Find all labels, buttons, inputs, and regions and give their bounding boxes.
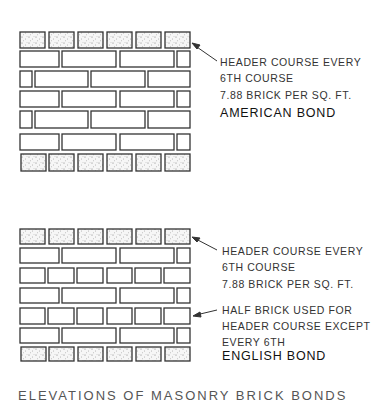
note-half-brick: HALF BRICK USED FOR	[222, 304, 352, 316]
arrow-head-icon	[192, 237, 200, 242]
arrow-head-icon	[193, 312, 201, 317]
note-every-6th: EVERY 6TH	[222, 336, 285, 348]
header-course-bottom	[21, 154, 190, 171]
note-6th-course: 6TH COURSE	[220, 72, 294, 84]
figure-caption: ELEVATIONS OF MASONRY BRICK BONDS	[18, 388, 347, 403]
note-header-except: HEADER COURSE EXCEPT	[222, 320, 371, 332]
note-header-course: HEADER COURSE EVERY	[222, 245, 363, 257]
diagram-title: AMERICAN BOND	[220, 107, 336, 119]
note-6th-course: 6TH COURSE	[222, 261, 296, 273]
note-brick-per-sqft: 7.88 BRICK PER SQ. FT.	[222, 278, 354, 290]
diagram-title: ENGLISH BOND	[222, 350, 326, 362]
note-brick-per-sqft: 7.88 BRICK PER SQ. FT.	[220, 89, 352, 101]
note-header-course: HEADER COURSE EVERY	[220, 56, 361, 68]
header-course-top	[20, 32, 190, 48]
